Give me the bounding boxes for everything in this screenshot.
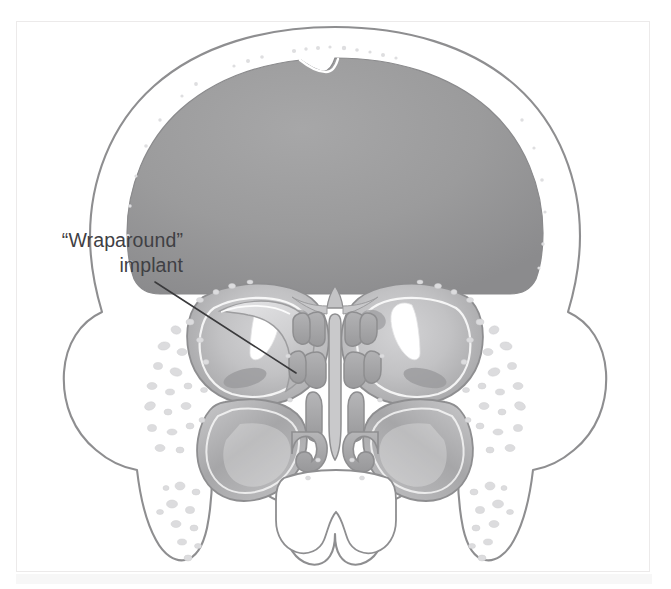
implant-callout-line1: “Wraparound” (3, 228, 183, 253)
right-orbit (341, 284, 483, 405)
implant-callout-line2: implant (3, 253, 183, 278)
figure-panel: “Wraparound” implant (0, 0, 671, 589)
coronal-skull-illustration (0, 0, 671, 589)
implant-callout-label: “Wraparound” implant (3, 228, 183, 278)
left-orbit (187, 284, 329, 405)
figure-bottom-strip (16, 574, 652, 584)
nasal-septum (329, 314, 341, 460)
